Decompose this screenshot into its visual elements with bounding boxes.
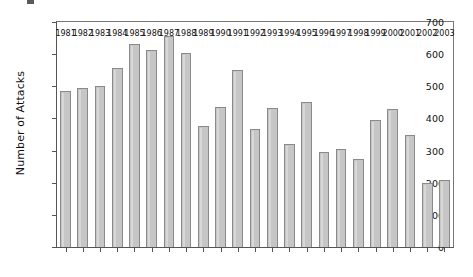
bar	[301, 102, 312, 247]
bar	[181, 53, 192, 247]
bar-slot	[370, 22, 381, 247]
bar	[60, 91, 71, 247]
bar-slot	[198, 22, 209, 247]
bar-slot	[146, 22, 157, 247]
x-tick	[186, 247, 187, 252]
bar-slot	[284, 22, 295, 247]
x-tick	[117, 247, 118, 252]
x-tick	[238, 247, 239, 252]
bar-slot	[267, 22, 278, 247]
x-tick	[134, 247, 135, 252]
bar	[129, 44, 140, 247]
bar	[232, 70, 243, 247]
bar-slot	[353, 22, 364, 247]
bar-slot	[301, 22, 312, 247]
bar-series	[57, 22, 453, 247]
bar	[146, 50, 157, 247]
bar	[439, 180, 450, 247]
bar	[370, 120, 381, 247]
x-tick	[169, 247, 170, 252]
bar	[164, 36, 175, 247]
bar-slot	[336, 22, 347, 247]
x-tick	[427, 247, 428, 252]
x-tick-label: 2003	[434, 29, 454, 38]
bar	[284, 144, 295, 248]
bar-slot	[112, 22, 123, 247]
bar	[353, 159, 364, 247]
bar	[387, 109, 398, 247]
figure-bar-chart: Number of Attacks 0100200300400500600700…	[0, 0, 473, 277]
x-tick	[376, 247, 377, 252]
x-tick	[341, 247, 342, 252]
bar-slot	[60, 22, 71, 247]
x-tick	[83, 247, 84, 252]
bar-slot	[164, 22, 175, 247]
bar-slot	[319, 22, 330, 247]
bar-slot	[215, 22, 226, 247]
x-tick	[66, 247, 67, 252]
x-tick	[444, 247, 445, 252]
x-tick	[203, 247, 204, 252]
x-tick	[324, 247, 325, 252]
bar-slot	[405, 22, 416, 247]
bar-slot	[422, 22, 433, 247]
bar-slot	[181, 22, 192, 247]
x-tick	[272, 247, 273, 252]
x-tick	[289, 247, 290, 252]
x-tick	[255, 247, 256, 252]
x-tick	[152, 247, 153, 252]
bar-slot	[250, 22, 261, 247]
bar	[215, 107, 226, 247]
x-tick	[307, 247, 308, 252]
x-tick	[221, 247, 222, 252]
bar	[267, 108, 278, 248]
bar	[422, 183, 433, 247]
x-tick	[393, 247, 394, 252]
bar	[319, 152, 330, 247]
x-tick	[358, 247, 359, 252]
bar	[198, 126, 209, 247]
bar	[405, 135, 416, 247]
y-tick	[52, 247, 57, 248]
bar	[250, 129, 261, 247]
plot-area: 0100200300400500600700 19811982198319841…	[56, 21, 454, 248]
x-tick	[100, 247, 101, 252]
bar-slot	[387, 22, 398, 247]
bar	[77, 88, 88, 247]
bar	[112, 68, 123, 247]
x-tick	[410, 247, 411, 252]
bar-slot	[439, 22, 450, 247]
bar-slot	[232, 22, 243, 247]
bar-slot	[95, 22, 106, 247]
bar-slot	[129, 22, 140, 247]
bar	[336, 149, 347, 247]
bar-slot	[77, 22, 88, 247]
bar	[95, 86, 106, 247]
y-axis-title: Number of Attacks	[11, 0, 29, 246]
